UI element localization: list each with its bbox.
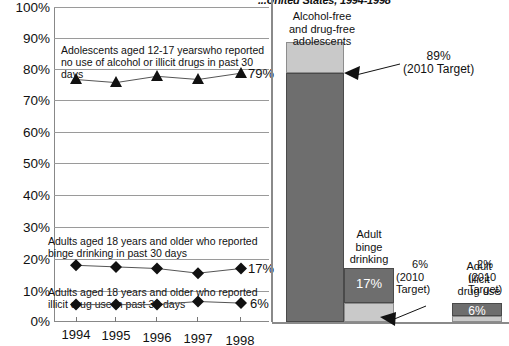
bar2-caption-line1: Adult bbox=[344, 228, 394, 241]
bar1-target-note: (2010 Target) bbox=[403, 63, 474, 76]
bar2-value: 17% bbox=[344, 276, 394, 291]
bar2-target-value: 6% bbox=[396, 258, 444, 271]
bar1-target-arrow bbox=[342, 58, 402, 84]
bar2-caption-line2: binge bbox=[344, 241, 394, 254]
series-adolescent-markers bbox=[70, 67, 247, 87]
bar3-target-note2: Target) bbox=[468, 283, 502, 296]
bar3-value: 6% bbox=[452, 304, 502, 318]
series-illicit-markers bbox=[70, 296, 247, 311]
bar1-caption: Alcohol-free and drug-free adolescents bbox=[282, 10, 362, 48]
bar1-caption-line1: Alcohol-free bbox=[282, 10, 362, 23]
chart-root: ...United States, 1994-1998 100% 90% 80%… bbox=[0, 0, 509, 346]
bar2-caption: Adult binge drinking bbox=[344, 228, 394, 266]
bar1-target-value: 89% bbox=[403, 50, 474, 63]
bar-alcohol-free-adolescents[interactable] bbox=[286, 42, 344, 322]
series-binge-markers bbox=[70, 259, 247, 279]
bar-chart-panel: Alcohol-free and drug-free adolescents 8… bbox=[272, 0, 509, 346]
series-layer bbox=[0, 0, 272, 346]
bar2-target-arrow bbox=[376, 296, 430, 326]
bar1-caption-line2: and drug-free bbox=[282, 23, 362, 36]
bar1-caption-line3: adolescents bbox=[282, 35, 362, 48]
bar2-caption-line3: drinking bbox=[344, 253, 394, 266]
bar1-current-segment bbox=[286, 73, 344, 322]
bar2-target-note2: Target) bbox=[396, 283, 444, 296]
bar1-target-label: 89% (2010 Target) bbox=[403, 50, 474, 75]
bar2-target-note1: (2010 bbox=[396, 271, 444, 284]
bar3-target-value: 2% bbox=[468, 258, 502, 271]
line-chart-panel: 100% 90% 80% 70% 60% 50% 40% 30% 20% 10%… bbox=[0, 0, 272, 346]
endlabel-illicit: 6% bbox=[250, 296, 269, 311]
bar3-target-note1: (2010 bbox=[468, 271, 502, 284]
bar3-target-label: 2% (2010 Target) bbox=[468, 258, 502, 296]
bar2-target-label: 6% (2010 Target) bbox=[396, 258, 444, 296]
bar-adult-illicit-drug-use[interactable]: 6% bbox=[452, 303, 502, 322]
